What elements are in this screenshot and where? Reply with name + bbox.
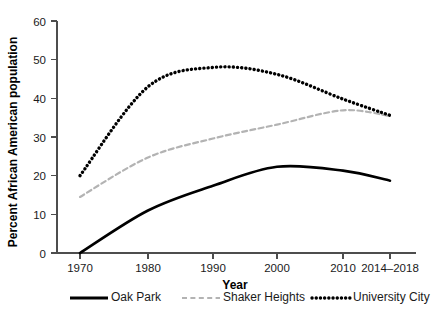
series-line-university-city: [80, 67, 390, 176]
legend-item-oak-park[interactable]: Oak Park: [70, 290, 162, 304]
chart-container: Percent African American population 0 10…: [0, 0, 431, 313]
x-tick-label-1980: 1980: [135, 262, 161, 274]
x-axis-ticks: 1970 1980 1990 2000 2010 2014–2018: [67, 253, 419, 274]
x-tick-label-1990: 1990: [200, 262, 226, 274]
line-chart: Percent African American population 0 10…: [0, 0, 431, 313]
y-tick-label-0: 0: [40, 248, 46, 260]
y-axis-ticks: 0 10 20 30 40 50 60: [33, 16, 57, 260]
y-tick-label-50: 50: [33, 54, 46, 66]
y-tick-label-30: 30: [33, 132, 46, 144]
series-line-shaker-heights: [80, 110, 390, 197]
chart-legend: Oak Park Shaker Heights University City: [70, 290, 430, 304]
legend-label-university-city: University City: [353, 290, 430, 304]
y-tick-label-20: 20: [33, 170, 46, 182]
x-tick-label-2000: 2000: [264, 262, 290, 274]
series-group: [80, 67, 390, 253]
legend-label-oak-park: Oak Park: [111, 290, 162, 304]
x-tick-label-2010: 2010: [330, 262, 356, 274]
x-tick-label-1970: 1970: [67, 262, 93, 274]
legend-item-shaker-heights[interactable]: Shaker Heights: [182, 290, 305, 304]
legend-item-university-city[interactable]: University City: [312, 290, 430, 304]
y-tick-label-10: 10: [33, 209, 46, 221]
y-tick-label-40: 40: [33, 93, 46, 105]
y-tick-label-60: 60: [33, 16, 46, 28]
x-tick-label-2014-2018: 2014–2018: [361, 262, 419, 274]
series-line-oak-park: [80, 166, 390, 253]
y-axis-title: Percent African American population: [6, 37, 20, 248]
legend-label-shaker-heights: Shaker Heights: [223, 290, 305, 304]
